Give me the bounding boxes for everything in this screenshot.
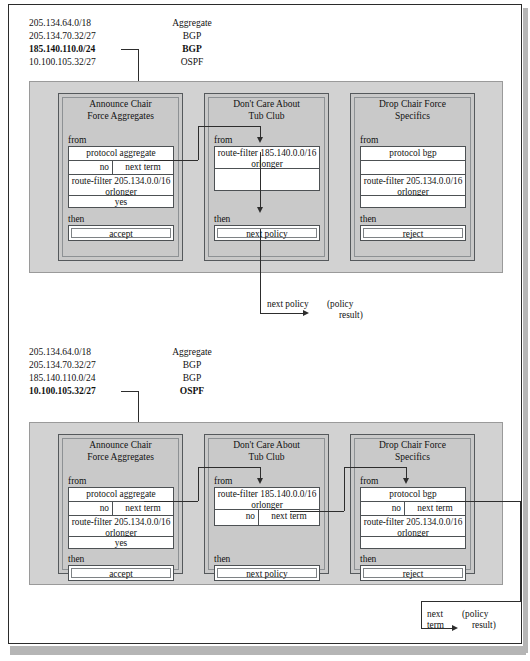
from-label: from xyxy=(360,135,378,146)
connector-route2-h xyxy=(121,391,139,392)
term-result-no: no xyxy=(69,162,109,173)
then-action-reject-2: reject xyxy=(360,565,466,581)
policy-title-line1: Drop Chair Force xyxy=(379,440,446,450)
policy-box-drop-chair-force-specifics-2[interactable]: Drop Chair Force Specifics from protocol… xyxy=(350,434,475,574)
route-row: 10.100.105.32/27 OSPF xyxy=(29,56,229,69)
policy-box-announce-chair-force-aggregates-2[interactable]: Announce Chair Force Aggregates from pro… xyxy=(58,434,183,574)
routefilter-line2: orlonger xyxy=(105,187,137,197)
then-action-value: accept xyxy=(109,569,133,579)
result-caption-1: (policy result) xyxy=(327,299,363,320)
term-result-no: no xyxy=(215,511,255,522)
policy-title: Drop Chair Force Specifics xyxy=(351,99,474,122)
term-next-term: next term xyxy=(258,510,319,525)
then-action-next-policy: next policy xyxy=(214,225,320,241)
from-label: from xyxy=(214,476,232,487)
then-action-value: next policy xyxy=(246,229,288,239)
then-action-value: reject xyxy=(403,229,424,239)
policy-title: Drop Chair Force Specifics xyxy=(351,440,474,463)
connector2-nextterm-v xyxy=(198,467,199,501)
routefilter-line1: route-filter 205.134.0.0/16 xyxy=(72,176,171,186)
policy-box-announce-chair-force-aggregates[interactable]: Announce Chair Force Aggregates from pro… xyxy=(58,93,183,261)
page-shadow-right xyxy=(523,8,528,653)
policy-title-line2: Tub Club xyxy=(249,111,285,121)
connector2-nextterm-h2 xyxy=(198,467,260,468)
then-label: then xyxy=(360,214,376,225)
term-cell: protocol aggregate xyxy=(69,147,173,161)
term-cell-split: no next term xyxy=(361,502,465,516)
from-terms-table: protocol bgp no next term route-filter 2… xyxy=(360,487,466,549)
then-label: then xyxy=(68,214,84,225)
term-cell-yes: yes xyxy=(69,537,173,548)
route-protocol: BGP xyxy=(157,43,227,56)
from-terms-table: route-filter 185.140.0.0/16 orlonger xyxy=(214,146,320,191)
routefilter-line1: route-filter 205.134.0.0/16 xyxy=(72,517,171,527)
term-cell-routefilter: route-filter 205.134.0.0/16 orlonger xyxy=(69,516,173,537)
route-protocol: OSPF xyxy=(157,385,227,398)
route-protocol: Aggregate xyxy=(157,17,227,30)
route-protocol: BGP xyxy=(157,372,227,385)
policy-box-dont-care-about-tub-club-2[interactable]: Don't Care About Tub Club from route-fil… xyxy=(204,434,329,574)
term-cell-split: no next term xyxy=(69,161,173,175)
then-label: then xyxy=(214,214,230,225)
policy-title-line1: Drop Chair Force xyxy=(379,99,446,109)
then-action-reject: reject xyxy=(360,225,466,241)
from-label: from xyxy=(360,476,378,487)
term-cell-yes: yes xyxy=(69,196,173,207)
from-terms-table: protocol bgp route-filter 205.134.0.0/16… xyxy=(360,146,466,208)
from-label: from xyxy=(214,135,232,146)
route-protocol: BGP xyxy=(157,30,227,43)
result-caption-line1: (policy xyxy=(327,299,353,309)
result-caption-2: (policy result) xyxy=(462,609,496,630)
connector-result1-h xyxy=(260,313,305,314)
term-cell-blank xyxy=(361,161,465,175)
routefilter-line1: route-filter 185.140.0.0/16 xyxy=(218,148,317,158)
route-row: 205.134.70.32/27 BGP xyxy=(29,30,229,43)
connector-nextterm-v xyxy=(198,126,199,160)
connector-route-h xyxy=(121,49,139,50)
policy-title-line2: Force Aggregates xyxy=(87,111,154,121)
then-action-value: reject xyxy=(403,569,424,579)
policy-title-line2: Specifics xyxy=(395,111,430,121)
connector-policy2-internal xyxy=(260,152,261,209)
then-label: then xyxy=(68,554,84,565)
route-prefix: 205.134.70.32/27 xyxy=(29,30,96,43)
route-prefix: 10.100.105.32/27 xyxy=(29,385,96,398)
term-cell-blank xyxy=(215,169,319,190)
connector2-nt3-h xyxy=(436,501,521,502)
term-cell-routefilter: route-filter 205.134.0.0/16 orlonger xyxy=(361,516,465,537)
term-cell: protocol bgp xyxy=(361,488,465,502)
policy-title: Don't Care About Tub Club xyxy=(205,99,328,122)
route-protocol: Aggregate xyxy=(157,346,227,359)
figure-page: 205.134.64.0/18 Aggregate 205.134.70.32/… xyxy=(8,4,522,644)
route-list-panel1: 205.134.64.0/18 Aggregate 205.134.70.32/… xyxy=(29,17,229,69)
then-label: then xyxy=(214,554,230,565)
policy-box-dont-care-about-tub-club[interactable]: Don't Care About Tub Club from route-fil… xyxy=(204,93,329,261)
routefilter-line1: route-filter 205.134.0.0/16 xyxy=(364,517,463,527)
policy-box-drop-chair-force-specifics[interactable]: Drop Chair Force Specifics from protocol… xyxy=(350,93,475,261)
result-caption-line2: result) xyxy=(339,310,363,321)
term-cell-split: no next term xyxy=(69,502,173,516)
route-prefix: 205.134.64.0/18 xyxy=(29,17,91,30)
route-row: 185.140.110.0/24 BGP xyxy=(29,372,229,385)
term-cell-routefilter: route-filter 185.140.0.0/16 orlonger xyxy=(215,488,319,510)
term-cell-routefilter: route-filter 205.134.0.0/16 orlonger xyxy=(361,175,465,196)
connector-nextterm-h xyxy=(144,160,198,161)
route-row: 205.134.70.32/27 BGP xyxy=(29,359,229,372)
routefilter-line2: orlonger xyxy=(105,528,137,538)
then-action-accept-2: accept xyxy=(68,565,174,581)
arrow-into-policy2 xyxy=(257,137,263,143)
route-prefix: 205.134.64.0/18 xyxy=(29,346,91,359)
page-shadow-bottom xyxy=(10,646,526,655)
term-next-term: next term xyxy=(112,502,173,515)
route-prefix: 205.134.70.32/27 xyxy=(29,359,96,372)
policy-title: Announce Chair Force Aggregates xyxy=(59,440,182,463)
from-terms-table: protocol aggregate no next term route-fi… xyxy=(68,146,174,208)
policy-title-line2: Specifics xyxy=(395,452,430,462)
term-result-no: no xyxy=(361,503,401,514)
routefilter-line2: orlonger xyxy=(397,187,429,197)
route-prefix: 185.140.110.0/24 xyxy=(29,43,95,56)
connector2-nt3-h2 xyxy=(421,601,521,602)
from-terms-table: protocol aggregate no next term route-fi… xyxy=(68,487,174,549)
then-label: then xyxy=(360,554,376,565)
route-protocol: OSPF xyxy=(157,56,227,69)
